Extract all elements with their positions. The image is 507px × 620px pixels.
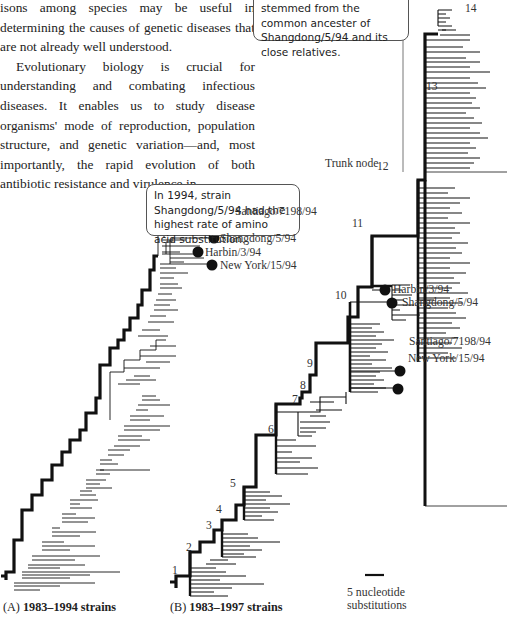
- node-10: 10: [335, 290, 347, 302]
- phylogenetic-trees-figure: [0, 0, 507, 620]
- node-3: 3: [206, 520, 212, 532]
- scale-bar-label: 5 nucleotide substitutions: [347, 586, 407, 611]
- trunk-node-label: Trunk node: [325, 158, 378, 170]
- scale-bar-line2: substitutions: [347, 599, 407, 612]
- node-7: 7: [292, 394, 298, 406]
- caption-a: (A) 1983–1994 strains: [3, 600, 116, 615]
- caption-b: (B) 1983–1997 strains: [170, 600, 282, 615]
- tree-b-label-harbin: Harbin/3/94: [393, 284, 449, 296]
- node-11: 11: [352, 218, 363, 230]
- node-5: 5: [230, 478, 236, 490]
- caption-a-title: 1983–1994 strains: [23, 600, 116, 614]
- scale-bar-line1: 5 nucleotide: [347, 586, 407, 599]
- node-14: 14: [465, 3, 477, 15]
- caption-b-letter: (B): [170, 600, 186, 614]
- tree-a-label-santiago: Santiago/7198/94: [235, 206, 317, 218]
- node-1: 1: [172, 565, 178, 577]
- node-9: 9: [307, 358, 313, 370]
- node-13: 13: [426, 81, 438, 93]
- tree-a-label-shangdong: Shangdong/5/94: [220, 233, 296, 245]
- node-4: 4: [216, 504, 222, 516]
- node-8: 8: [300, 380, 306, 392]
- tree-b-label-shangdong: Shangdong/5/94: [402, 297, 478, 309]
- callout-common-ancestor: stemmed from the common ancester of Shan…: [253, 0, 409, 41]
- tree-b-label-new-york: New York/15/94: [408, 353, 485, 365]
- node-12: 12: [377, 161, 389, 173]
- tree-a-label-new-york: New York/15/94: [220, 260, 297, 272]
- tree-b-label-santiago: Santiago/7198/94: [409, 336, 491, 348]
- node-2: 2: [186, 542, 192, 554]
- caption-a-letter: (A): [3, 600, 20, 614]
- tree-a-label-harbin: Harbin/3/94: [205, 247, 261, 259]
- caption-b-title: 1983–1997 strains: [189, 600, 282, 614]
- node-6: 6: [268, 424, 274, 436]
- tree-a: [1, 207, 234, 591]
